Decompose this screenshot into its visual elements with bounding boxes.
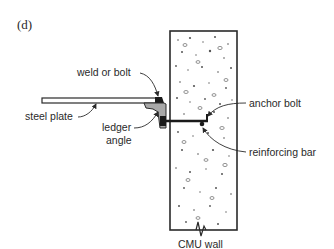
cmu-wall — [170, 31, 237, 236]
label-angle: angle — [106, 134, 132, 146]
leader-steel-plate — [78, 104, 96, 117]
label-steel-plate: steel plate — [25, 110, 73, 122]
figure-label: (d) — [17, 17, 32, 32]
label-weld-or-bolt: weld or bolt — [76, 66, 131, 78]
label-anchor-bolt: anchor bolt — [249, 97, 301, 109]
connection-detail-diagram: (d) — [0, 0, 334, 249]
steel-plate — [42, 98, 160, 103]
label-reinforcing-bar: reinforcing bar — [249, 146, 317, 158]
leader-ledger-angle — [134, 112, 158, 128]
leader-weld — [140, 73, 158, 96]
label-cmu-wall: CMU wall — [178, 238, 223, 249]
weld-symbol — [155, 97, 164, 103]
label-ledger: ledger — [102, 121, 132, 133]
reinforcing-bar — [200, 122, 205, 127]
